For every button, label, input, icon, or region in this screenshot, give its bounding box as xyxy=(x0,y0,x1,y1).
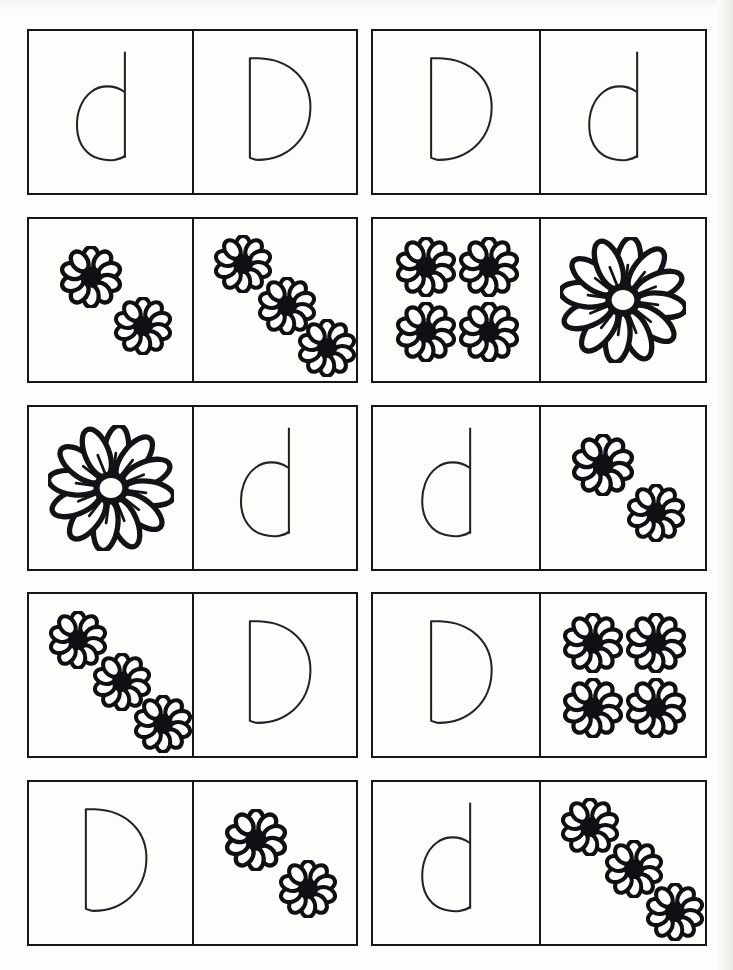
card-pair-right xyxy=(371,29,707,195)
large-daisy-icon xyxy=(560,237,686,363)
small-daisy-icon xyxy=(114,297,172,355)
small-daisy-icon xyxy=(563,678,623,738)
card-flowers-2[interactable] xyxy=(539,407,705,569)
card-pair-right xyxy=(371,780,707,946)
small-daisy-icon xyxy=(646,883,704,941)
card-flowers-1[interactable] xyxy=(29,407,192,569)
card-letter-lowercase-d[interactable] xyxy=(373,407,539,569)
scan-edge-right xyxy=(717,0,733,970)
card-flowers-4[interactable] xyxy=(539,594,705,756)
small-daisy-icon xyxy=(627,484,685,542)
scan-edge-top xyxy=(0,0,733,10)
card-letter-uppercase-d[interactable] xyxy=(192,31,356,193)
cut-gutter xyxy=(358,592,371,758)
cut-gutter xyxy=(358,29,371,195)
small-daisy-icon xyxy=(459,302,519,362)
card-flowers-3[interactable] xyxy=(192,219,356,381)
large-daisy-icon xyxy=(48,425,174,551)
card-letter-lowercase-d[interactable] xyxy=(539,31,705,193)
small-daisy-icon xyxy=(563,613,623,673)
card-flowers-3[interactable] xyxy=(29,594,192,756)
card-letter-uppercase-d[interactable] xyxy=(29,782,192,944)
card-flowers-3[interactable] xyxy=(539,782,705,944)
card-row xyxy=(27,29,707,195)
small-daisy-icon xyxy=(396,237,456,297)
card-letter-uppercase-d[interactable] xyxy=(373,594,539,756)
small-daisy-icon xyxy=(298,319,356,377)
card-flowers-4[interactable] xyxy=(373,219,539,381)
card-letter-uppercase-d[interactable] xyxy=(373,31,539,193)
card-pair-right xyxy=(371,405,707,571)
card-pair-left xyxy=(27,29,358,195)
small-daisy-icon xyxy=(626,613,686,673)
card-letter-lowercase-d[interactable] xyxy=(29,31,192,193)
cut-gutter xyxy=(358,217,371,383)
small-daisy-icon xyxy=(60,246,122,308)
card-pair-left xyxy=(27,217,358,383)
small-daisy-icon xyxy=(459,237,519,297)
card-pair-right xyxy=(371,592,707,758)
cut-gutter xyxy=(358,780,371,946)
small-daisy-icon xyxy=(396,302,456,362)
small-daisy-icon xyxy=(134,695,192,753)
card-pair-left xyxy=(27,405,358,571)
card-letter-uppercase-d[interactable] xyxy=(192,594,356,756)
card-pair-left xyxy=(27,780,358,946)
card-flowers-1[interactable] xyxy=(539,219,705,381)
small-daisy-icon xyxy=(626,678,686,738)
card-row xyxy=(27,217,707,383)
card-row xyxy=(27,405,707,571)
card-flowers-2[interactable] xyxy=(29,219,192,381)
small-daisy-icon xyxy=(572,434,634,496)
card-pair-right xyxy=(371,217,707,383)
card-row xyxy=(27,780,707,946)
small-daisy-icon xyxy=(279,860,337,918)
worksheet-page xyxy=(0,0,733,970)
card-flowers-2[interactable] xyxy=(192,782,356,944)
card-row xyxy=(27,592,707,758)
card-letter-lowercase-d[interactable] xyxy=(192,407,356,569)
card-letter-lowercase-d[interactable] xyxy=(373,782,539,944)
card-grid xyxy=(27,29,707,946)
cut-gutter xyxy=(358,405,371,571)
card-pair-left xyxy=(27,592,358,758)
